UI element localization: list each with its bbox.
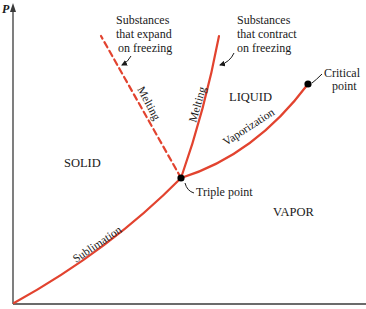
contract-line-2: that contract [237,27,297,41]
contract-arrow-icon [220,53,234,65]
contract-line-1: Substances [237,13,291,27]
y-axis-arrow-icon [10,3,16,12]
triple-point-leader [185,183,194,193]
melting-contract-label: Melting [186,85,209,124]
region-liquid: LIQUID [229,90,272,104]
region-vapor: VAPOR [273,205,314,219]
contract-annotation: Substances that contract on freezing [220,13,297,65]
critical-point-leader [312,74,322,83]
triple-point-label: Triple point [196,185,253,199]
region-solid: SOLID [64,156,101,170]
phase-diagram: P SOLID LIQUID VAPOR Sublimation Vaporiz… [0,0,366,309]
expand-line-3: on freezing [118,41,172,55]
expand-line-1: Substances [116,13,170,27]
phase-curves [14,36,308,303]
critical-point-label-2: point [332,79,357,93]
critical-point-label-1: Critical [324,66,361,80]
melting-curve-expand [101,36,181,178]
contract-line-3: on freezing [237,41,291,55]
expand-arrow-icon [122,56,131,65]
y-axis-label: P [2,2,10,16]
triple-point-marker [177,174,184,181]
critical-point-marker [304,80,311,87]
expand-line-2: that expand [116,27,172,41]
axes: P [2,2,366,304]
expand-annotation: Substances that expand on freezing [116,13,172,65]
sublimation-label: Sublimation [70,223,124,265]
